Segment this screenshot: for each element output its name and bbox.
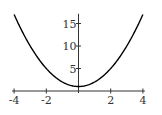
x-tick-label: 2 bbox=[107, 94, 114, 107]
parabola-chart: -4-224 51015 bbox=[0, 0, 162, 115]
y-tick-label: 5 bbox=[70, 63, 77, 76]
axes bbox=[12, 14, 145, 93]
y-tick-label: 10 bbox=[63, 40, 77, 53]
x-tick-label: -4 bbox=[9, 94, 20, 107]
x-tick-label: 4 bbox=[139, 94, 146, 107]
y-tick-label: 15 bbox=[63, 18, 77, 31]
x-tick-label: -2 bbox=[41, 94, 52, 107]
